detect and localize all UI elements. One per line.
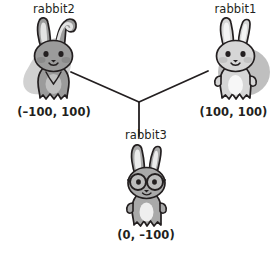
rabbit2-eye-left: [43, 51, 48, 57]
rabbit1-cheek-right: [244, 57, 253, 63]
rabbit2-illustration: [22, 16, 88, 104]
node-rabbit2[interactable]: rabbit2 (: [4, 0, 104, 125]
rabbit3-illustration: [117, 143, 177, 229]
rabbit2-cheek-right: [62, 57, 71, 63]
rabbit1-head: [217, 41, 255, 72]
rabbit2-eye-right: [58, 51, 63, 57]
node-rabbit1-coordinates: (100, 100): [194, 105, 273, 119]
rabbit3-arm-left: [127, 203, 133, 213]
rabbit1-illustration: [204, 16, 270, 104]
rabbit3-eye-right: [152, 179, 157, 185]
rabbit1-eye-left: [225, 51, 230, 57]
node-rabbit3-name: rabbit3: [100, 128, 192, 142]
node-rabbit1-name: rabbit1: [196, 2, 275, 16]
rabbit3-belly: [140, 203, 154, 222]
node-rabbit1[interactable]: rabbit1 (100, 100): [196, 0, 275, 125]
rabbit2-head: [35, 41, 73, 72]
rabbit1-belly: [228, 75, 243, 95]
rabbit3-eye-left: [136, 179, 141, 185]
rabbit1-cheek-left: [219, 57, 228, 63]
rabbit1-eye-right: [240, 51, 245, 57]
node-rabbit3[interactable]: rabbit3 (: [100, 128, 192, 259]
node-rabbit2-name: rabbit2: [18, 2, 90, 16]
diagram-canvas: rabbit2 (: [0, 0, 275, 259]
node-rabbit3-coordinates: (0, –100): [100, 228, 192, 242]
rabbit3-glasses-temple-left: [128, 180, 130, 181]
rabbit2-cheek-left: [37, 57, 46, 63]
rabbit3-arm-right: [160, 203, 166, 213]
rabbit3-glasses-temple-right: [163, 180, 165, 181]
rabbit1-arm-left: [215, 76, 221, 86]
node-rabbit2-coordinates: (–100, 100): [4, 105, 104, 119]
rabbit1-arm-right: [250, 76, 256, 86]
